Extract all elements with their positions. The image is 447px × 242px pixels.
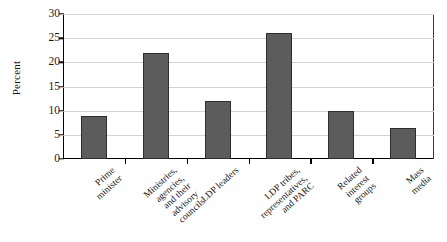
x-tick-label: Relatedinterestgroups — [268, 165, 378, 242]
bar — [328, 111, 354, 159]
x-tick-mark — [125, 159, 126, 164]
bar — [390, 128, 416, 159]
gridline — [63, 62, 434, 63]
x-tick-mark — [310, 159, 311, 164]
y-tick-label: 0 — [30, 153, 60, 165]
y-tick-label: 5 — [30, 129, 60, 141]
gridline — [63, 135, 434, 136]
x-tick-label-line: councils — [111, 196, 207, 242]
x-tick-mark — [187, 159, 188, 164]
x-tick-label-line: representatives, — [213, 173, 309, 242]
bar — [266, 33, 292, 159]
x-tick-label: Massmedia — [330, 165, 433, 242]
y-tick-label: 25 — [30, 32, 60, 44]
x-tick-label: Ministries,agencies,and theiradvisorycou… — [83, 165, 207, 242]
x-tick-label-line: LDP tribes, — [206, 165, 302, 242]
gridline — [63, 87, 434, 88]
x-tick-label: LDP tribes,representatives,and PARC — [206, 165, 316, 242]
x-tick-label-line: Mass — [330, 165, 426, 242]
x-tick-label-line: groups — [282, 181, 378, 242]
x-tick-label-line: Prime — [21, 165, 117, 242]
x-tick-label-line: LDP leaders — [144, 165, 240, 242]
y-tick-label: 15 — [30, 81, 60, 93]
x-tick-mark — [249, 159, 250, 164]
bar — [143, 53, 169, 159]
gridline — [63, 38, 434, 39]
bar — [81, 116, 107, 160]
gridline — [63, 14, 434, 15]
y-tick-label: 30 — [30, 8, 60, 20]
x-tick-label-line: Ministries, — [83, 165, 179, 242]
x-tick-label-line: Related — [268, 165, 364, 242]
x-tick-mark — [372, 159, 373, 164]
x-tick-label-line: advisory — [104, 188, 200, 242]
x-tick-label-line: minister — [28, 173, 124, 242]
x-tick-label-line: agencies, — [90, 173, 186, 242]
gridline — [63, 111, 434, 112]
x-tick-label-line: interest — [275, 173, 371, 242]
x-tick-label: Primeminister — [21, 165, 124, 242]
y-tick-label: 10 — [30, 105, 60, 117]
x-tick-label-line: and PARC — [220, 181, 316, 242]
y-axis-title: Percent — [10, 38, 22, 118]
plot-area — [63, 14, 434, 159]
bar-chart-figure: Percent 051015202530 PrimeministerMinist… — [0, 0, 447, 242]
x-tick-label: LDP leaders — [144, 165, 240, 242]
y-tick-label: 20 — [30, 57, 60, 69]
x-tick-label-line: media — [337, 173, 433, 242]
x-tick-label-line: and their — [97, 181, 193, 242]
bar — [205, 101, 231, 159]
